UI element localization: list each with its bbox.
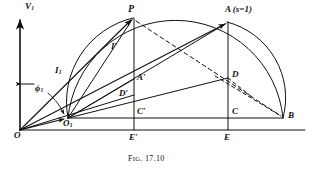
label-point-p: P <box>128 4 134 14</box>
line-o1-d <box>68 78 228 118</box>
figure-caption: FIG. 17.10 <box>128 154 165 163</box>
line-o1-p <box>68 20 132 119</box>
label-point-e: E <box>224 133 230 142</box>
label-point-b: B <box>288 111 294 120</box>
phasor-o-a <box>20 24 225 130</box>
label-point-e-prime: E′ <box>129 133 138 142</box>
label-current-i1: I1 <box>55 66 62 76</box>
label-point-o1: O1 <box>63 119 73 129</box>
dashed-line-d-b <box>215 76 281 116</box>
label-v1: V1 <box>25 2 34 12</box>
dashed-line-p-b <box>136 21 281 116</box>
label-point-a-prime: A′ <box>137 73 146 82</box>
phasor-diagram <box>0 0 315 173</box>
label-point-a-slip: A (s=1) <box>225 5 252 14</box>
label-current-i-prime: I′ <box>111 42 117 51</box>
label-point-d: D <box>232 70 239 79</box>
label-point-d-prime: D′ <box>119 89 128 98</box>
dashed-line-a-c <box>228 78 252 97</box>
label-point-c: C <box>232 107 238 116</box>
label-angle-phi1: ϕ1 <box>35 84 43 94</box>
figure-container: V1 P A (s=1) I′ I1 ϕ1 A′ D′ C′ E′ D C E … <box>0 0 315 173</box>
label-point-c-prime: C′ <box>137 107 146 116</box>
label-origin-o: O <box>14 131 21 140</box>
